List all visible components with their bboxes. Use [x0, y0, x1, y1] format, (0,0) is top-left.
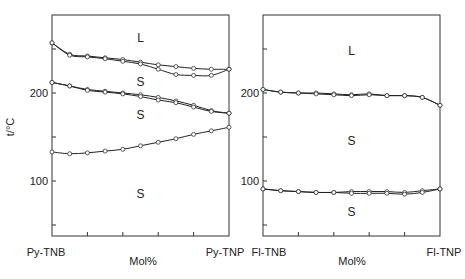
data-point-marker	[121, 147, 125, 151]
data-point-marker	[174, 137, 178, 141]
data-point-marker	[296, 91, 300, 95]
phase-diagram-figure: t/°C Py-TNB Py-TNP Mol% 100200LSSS Fl-TN…	[0, 0, 465, 279]
phase-region-label: S	[347, 205, 355, 219]
data-point-marker	[314, 190, 318, 194]
data-point-marker	[279, 189, 283, 193]
data-point-marker	[139, 144, 143, 148]
data-point-marker	[156, 63, 160, 67]
left-x-axis-label: Mol%	[129, 255, 157, 267]
y-tick-label: 200	[241, 87, 259, 99]
data-point-marker	[85, 151, 89, 155]
data-point-marker	[85, 55, 89, 59]
data-point-marker	[156, 67, 160, 71]
phase-region-label: L	[137, 31, 144, 45]
series-line-liquidus-lower	[52, 43, 229, 76]
data-point-marker	[50, 80, 54, 84]
data-point-marker	[103, 90, 107, 94]
phase-region-label: S	[347, 134, 355, 148]
right-x-axis-label: Mol%	[338, 255, 366, 267]
data-point-marker	[367, 93, 371, 97]
data-point-marker	[50, 150, 54, 154]
data-point-marker	[174, 65, 178, 69]
data-point-marker	[209, 73, 213, 77]
data-point-marker	[103, 149, 107, 153]
data-point-marker	[209, 109, 213, 113]
data-point-marker	[367, 191, 371, 195]
y-tick-label: 100	[30, 175, 48, 187]
data-point-marker	[174, 101, 178, 105]
y-tick-label: 100	[241, 175, 259, 187]
data-point-marker	[174, 73, 178, 77]
data-point-marker	[227, 67, 231, 71]
data-point-marker	[350, 94, 354, 98]
data-point-marker	[121, 59, 125, 63]
data-point-marker	[103, 57, 107, 61]
phase-diagram-svg: t/°C Py-TNB Py-TNP Mol% 100200LSSS Fl-TN…	[0, 0, 465, 279]
data-point-marker	[68, 84, 72, 88]
data-point-marker	[139, 62, 143, 66]
phase-region-label: S	[136, 75, 144, 89]
data-point-marker	[420, 95, 424, 99]
data-point-marker	[261, 87, 265, 91]
data-point-marker	[420, 190, 424, 194]
data-point-marker	[438, 103, 442, 107]
data-point-marker	[332, 93, 336, 97]
left-panel-frame	[52, 15, 229, 236]
data-point-marker	[192, 73, 196, 77]
right-panel-fl: Fl-TNB Fl-TNP Mol% 100200LSS	[241, 15, 462, 267]
data-point-marker	[192, 132, 196, 136]
data-point-marker	[314, 92, 318, 96]
data-point-marker	[85, 88, 89, 92]
y-axis-label: t/°C	[4, 118, 16, 137]
right-x-start-label: Fl-TNB	[252, 246, 287, 258]
data-point-marker	[332, 190, 336, 194]
data-point-marker	[121, 92, 125, 96]
phase-region-label: L	[348, 44, 355, 58]
data-point-marker	[385, 94, 389, 98]
data-point-marker	[403, 192, 407, 196]
data-point-marker	[192, 105, 196, 109]
phase-region-label: S	[136, 108, 144, 122]
data-point-marker	[68, 53, 72, 57]
left-panel-py: Py-TNB Py-TNP Mol% 100200LSSS	[27, 15, 245, 267]
data-point-marker	[50, 41, 54, 45]
phase-region-label: S	[136, 187, 144, 201]
data-point-marker	[156, 98, 160, 102]
series-line-transition-2	[52, 127, 229, 153]
data-point-marker	[296, 190, 300, 194]
data-point-marker	[438, 187, 442, 191]
right-x-end-label: Fl-TNP	[427, 246, 462, 258]
data-point-marker	[209, 67, 213, 71]
data-point-marker	[279, 90, 283, 94]
data-point-marker	[403, 94, 407, 98]
data-point-marker	[385, 191, 389, 195]
left-x-start-label: Py-TNB	[27, 246, 66, 258]
data-point-marker	[261, 187, 265, 191]
data-point-marker	[156, 140, 160, 144]
data-point-marker	[139, 95, 143, 99]
data-point-marker	[209, 129, 213, 133]
left-x-end-label: Py-TNP	[206, 246, 245, 258]
data-point-marker	[350, 191, 354, 195]
data-point-marker	[68, 152, 72, 156]
data-point-marker	[227, 125, 231, 129]
y-tick-label: 200	[30, 87, 48, 99]
data-point-marker	[227, 111, 231, 115]
data-point-marker	[192, 66, 196, 70]
